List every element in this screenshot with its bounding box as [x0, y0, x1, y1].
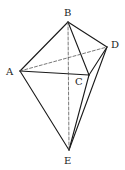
vertex-label-b: B	[64, 7, 71, 18]
edge-bd	[68, 22, 107, 47]
edge-ab	[20, 22, 68, 71]
edge-bc	[68, 22, 89, 75]
edge-be	[68, 22, 69, 150]
vertex-label-e: E	[64, 155, 71, 166]
edge-ae	[20, 71, 69, 150]
vertex-label-c: C	[75, 76, 83, 87]
vertex-label-a: A	[5, 66, 14, 77]
edge-ac	[20, 71, 89, 75]
vertex-label-d: D	[111, 39, 119, 50]
vertex-labels-group: A B C D E	[5, 7, 119, 166]
edges-group	[20, 22, 107, 150]
edge-de	[69, 47, 107, 150]
geometry-diagram: A B C D E	[0, 0, 125, 170]
